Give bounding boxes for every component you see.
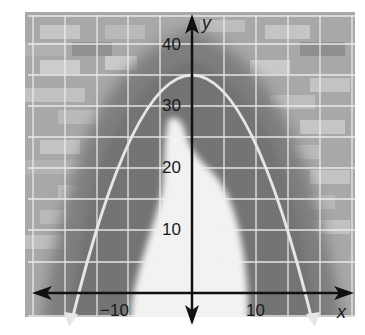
y-axis-label: y <box>200 13 212 33</box>
tick-y-40: 40 <box>162 35 181 54</box>
curve-arrow-left-icon <box>64 312 78 327</box>
x-axis-label: x <box>336 302 347 322</box>
tick-x-neg10: −10 <box>100 301 129 320</box>
tick-y-10: 10 <box>162 220 181 239</box>
curve-arrow-right-icon <box>306 312 320 327</box>
tick-y-30: 30 <box>162 96 181 115</box>
tick-x-10: 10 <box>246 301 265 320</box>
tick-y-20: 20 <box>162 158 181 177</box>
parabola-chart: y x 40 30 20 10 −10 10 <box>0 0 365 335</box>
background-photo <box>20 10 360 330</box>
